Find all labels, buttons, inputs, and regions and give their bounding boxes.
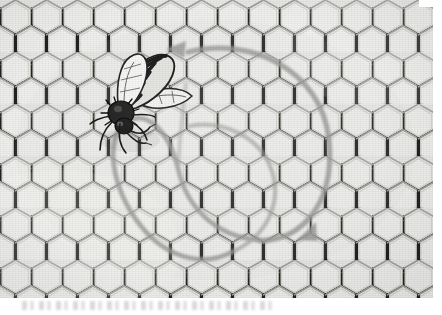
screenshot-canvas [0,0,442,315]
scan-corner-notch [419,0,433,7]
honeycomb-artwork [0,0,433,298]
caption-smudge [22,301,272,310]
honeycomb-photograph [0,0,433,298]
bee-shadow [100,128,160,152]
